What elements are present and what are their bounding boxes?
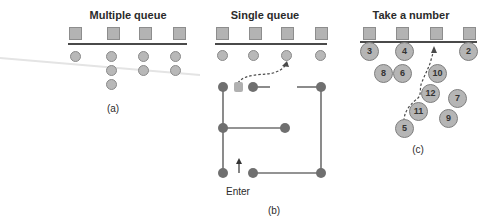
- ticket-number: 8: [374, 64, 393, 83]
- ticket-number: 7: [448, 89, 467, 108]
- ticket-number: 10: [428, 64, 447, 83]
- ticket-number: 2: [459, 42, 478, 61]
- ticket-number: 9: [439, 109, 458, 128]
- ticket-number: 12: [421, 84, 440, 103]
- ticket-number: 6: [393, 64, 412, 83]
- ticket-number: 4: [395, 42, 414, 61]
- ticket-number: 3: [360, 42, 379, 61]
- panel-caption: (c): [412, 144, 424, 155]
- ticket-number: 5: [395, 119, 414, 138]
- ticket-number: 11: [409, 102, 428, 121]
